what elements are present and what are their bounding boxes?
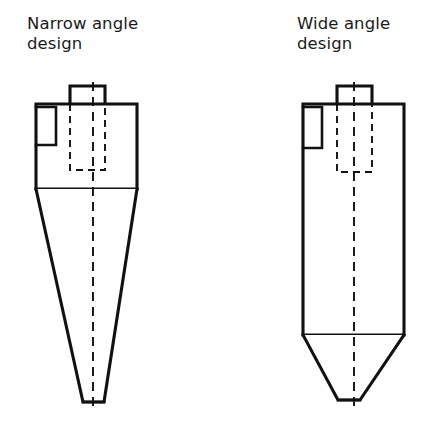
- narrow-conical-section: [36, 189, 137, 402]
- wide-angle-caption-line1: Wide angle: [297, 14, 390, 33]
- narrow-angle-caption-line1: Narrow angle: [27, 14, 138, 33]
- wide-angle-design-group: Wide angle design: [297, 14, 404, 412]
- cyclone-design-figure: Narrow angle design Wide angle design: [0, 0, 439, 426]
- narrow-cylinder-body: [36, 104, 137, 189]
- cyclone-diagram-canvas: Narrow angle design Wide angle design: [0, 0, 439, 426]
- narrow-angle-design-group: Narrow angle design: [27, 14, 138, 412]
- narrow-angle-caption-line2: design: [27, 34, 82, 53]
- narrow-gas-outlet-pipe: [70, 86, 105, 104]
- wide-angle-caption-line2: design: [297, 34, 352, 53]
